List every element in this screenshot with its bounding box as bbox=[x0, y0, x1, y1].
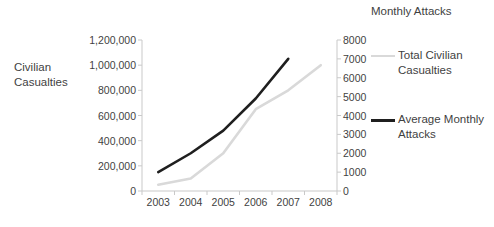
series-line bbox=[158, 59, 288, 172]
left-axis-tick-marks bbox=[138, 40, 142, 191]
x-axis-tick-marks bbox=[142, 191, 337, 195]
legend-entry[interactable]: Average Monthly Attacks bbox=[371, 112, 491, 142]
chart-legend: Total Civilian CasualtiesAverage Monthly… bbox=[371, 48, 491, 160]
chart-container: Civilian Casualties Monthly Attacks 0200… bbox=[0, 0, 494, 227]
legend-label: Average Monthly Attacks bbox=[398, 112, 491, 142]
right-axis-tick-marks bbox=[337, 40, 341, 191]
series-lines bbox=[158, 59, 321, 185]
legend-swatch-line-icon bbox=[371, 55, 395, 57]
legend-swatch-line-icon bbox=[371, 119, 395, 122]
legend-label: Total Civilian Casualties bbox=[398, 48, 491, 78]
series-line bbox=[158, 65, 321, 185]
legend-entry[interactable]: Total Civilian Casualties bbox=[371, 48, 491, 78]
